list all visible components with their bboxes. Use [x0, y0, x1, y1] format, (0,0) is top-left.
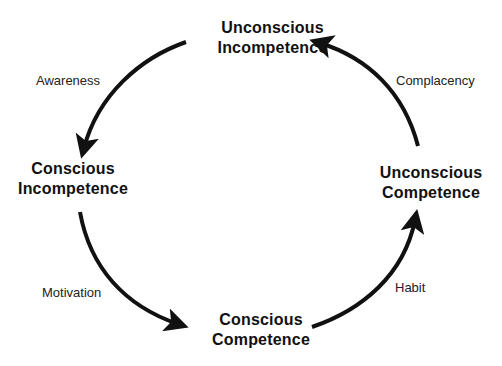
stage-label-line1: Unconscious: [200, 18, 345, 38]
stage-unconscious-competence: Unconscious Competence: [367, 163, 495, 203]
stage-label-line2: Competence: [367, 183, 495, 203]
arrow-awareness: [84, 42, 186, 148]
transition-label-awareness: Awareness: [36, 73, 100, 88]
stage-conscious-incompetence: Conscious Incompetence: [12, 159, 134, 199]
stage-conscious-competence: Conscious Competence: [200, 310, 322, 350]
arrow-habit: [312, 220, 415, 327]
arrow-complacency: [320, 43, 418, 146]
competence-cycle-diagram: Unconscious Incompetence Conscious Incom…: [0, 0, 502, 366]
arrow-motivation: [80, 212, 178, 324]
stage-label-line1: Conscious: [200, 310, 322, 330]
transition-label-complacency: Complacency: [396, 73, 475, 88]
stage-label-line2: Incompetence: [200, 38, 345, 58]
stage-label-line2: Competence: [200, 330, 322, 350]
stage-label-line2: Incompetence: [12, 179, 134, 199]
stage-unconscious-incompetence: Unconscious Incompetence: [200, 18, 345, 58]
transition-label-motivation: Motivation: [42, 285, 101, 300]
transition-label-habit: Habit: [395, 280, 425, 295]
stage-label-line1: Conscious: [12, 159, 134, 179]
stage-label-line1: Unconscious: [367, 163, 495, 183]
